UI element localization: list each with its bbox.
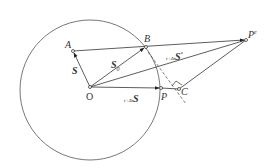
line-c-to-pe xyxy=(179,40,246,89)
point-p xyxy=(160,87,163,90)
line-p-to-c xyxy=(161,88,179,89)
label-pe: Pe xyxy=(248,29,257,40)
label-vector-tdt-s-text: S xyxy=(133,93,139,104)
label-c: C xyxy=(181,87,188,97)
kinematics-diagram xyxy=(0,0,270,168)
label-vector-tdt-s-prefix: t+Δt xyxy=(124,98,133,103)
label-vector-s0: S0 xyxy=(111,60,120,72)
label-o: O xyxy=(86,92,93,102)
line-a-to-pe xyxy=(73,40,244,51)
vector-tdt-s-line xyxy=(90,87,159,88)
label-p: P xyxy=(161,92,167,102)
point-a xyxy=(72,50,75,53)
label-vector-tdt-s: t+ΔtS xyxy=(124,89,139,105)
label-b: B xyxy=(144,34,150,44)
label-a: A xyxy=(65,40,71,50)
point-o xyxy=(89,86,92,89)
label-vector-tdt-se-prefix: t+Δt xyxy=(166,56,175,61)
point-b xyxy=(145,46,148,49)
label-vector-tdt-se-sup: e xyxy=(181,50,183,55)
label-vector-s0-sub: 0 xyxy=(117,66,120,72)
label-vector-s-text: S xyxy=(72,65,78,76)
label-vector-s: S xyxy=(72,66,78,76)
label-pe-sup: e xyxy=(254,29,257,35)
label-vector-tdt-se: t+ΔtSe xyxy=(166,47,183,63)
trajectory-circle xyxy=(20,20,160,160)
